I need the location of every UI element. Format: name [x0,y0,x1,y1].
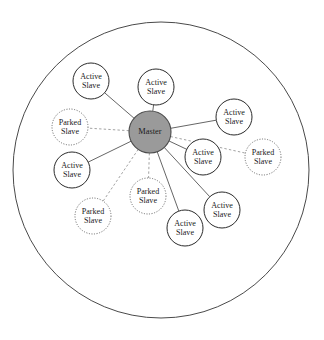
node-parked-slave-4[interactable]: ParkedSlave [130,178,166,214]
node-master[interactable]: Master [129,111,171,153]
parked-slave-1-label-line2: Slave [61,127,79,136]
master-label: Master [138,127,161,136]
active-slave-7-label-line1: Active [174,219,196,228]
active-slave-2-label-line1: Active [145,78,167,87]
link-master-to-active-slave-3 [171,120,217,128]
link-master-to-active-slave-1 [105,93,134,118]
active-slave-3-label-line1: Active [223,108,245,117]
link-master-to-parked-slave-4 [149,153,150,178]
parked-slave-3-label-line1: Parked [82,207,104,216]
node-active-slave-6[interactable]: ActiveSlave [204,192,240,228]
piconet-canvas: ActiveSlaveActiveSlaveActiveSlaveActiveS… [0,0,324,340]
node-active-slave-5[interactable]: ActiveSlave [54,152,90,188]
node-active-slave-3[interactable]: ActiveSlave [216,99,252,135]
active-slave-4-label-line1: Active [192,148,214,157]
node-parked-slave-3[interactable]: ParkedSlave [75,198,111,234]
active-slave-5-label-line1: Active [61,161,83,170]
active-slave-6-label-line2: Slave [213,210,231,219]
node-active-slave-4[interactable]: ActiveSlave [185,139,221,175]
piconet-diagram: ActiveSlaveActiveSlaveActiveSlaveActiveS… [0,0,324,340]
active-slave-1-label-line2: Slave [82,81,100,90]
link-master-to-active-slave-4 [169,141,187,149]
active-slave-2-label-line2: Slave [147,87,165,96]
active-slave-6-label-line1: Active [211,201,233,210]
parked-slave-2-label-line2: Slave [254,157,272,166]
link-master-to-active-slave-5 [88,141,131,162]
active-slave-1-label-line1: Active [80,72,102,81]
node-parked-slave-1[interactable]: ParkedSlave [52,109,88,145]
parked-slave-3-label-line2: Slave [84,216,102,225]
parked-slave-2-label-line1: Parked [252,148,274,157]
node-active-slave-2[interactable]: ActiveSlave [138,69,174,105]
parked-slave-4-label-line2: Slave [139,196,157,205]
parked-slave-1-label-line1: Parked [59,118,81,127]
node-layer: ActiveSlaveActiveSlaveActiveSlaveActiveS… [52,63,281,246]
active-slave-4-label-line2: Slave [194,157,212,166]
parked-slave-4-label-line1: Parked [137,187,159,196]
active-slave-7-label-line2: Slave [176,228,194,237]
node-active-slave-1[interactable]: ActiveSlave [73,63,109,99]
link-master-to-active-slave-2 [153,105,154,111]
node-active-slave-7[interactable]: ActiveSlave [167,210,203,246]
node-parked-slave-2[interactable]: ParkedSlave [245,139,281,175]
active-slave-3-label-line2: Slave [225,117,243,126]
active-slave-5-label-line2: Slave [63,170,81,179]
link-master-to-parked-slave-1 [88,128,129,131]
